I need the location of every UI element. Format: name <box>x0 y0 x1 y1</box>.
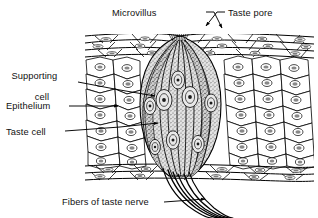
label-fibers-of-taste-nerve: Fibers of taste nerve <box>62 197 149 208</box>
label-supporting-cell-line1: Supporting <box>11 71 57 81</box>
label-taste-pore: Taste pore <box>228 8 272 19</box>
label-taste-cell: Taste cell <box>6 127 46 138</box>
label-epithelium: Epithelium <box>6 101 50 112</box>
label-microvillus: Microvillus <box>112 8 157 19</box>
